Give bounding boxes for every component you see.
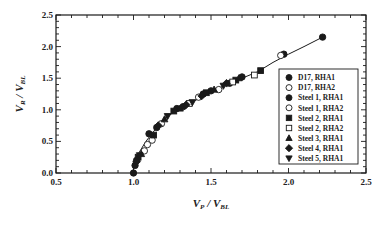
legend-item-label: Steel 1, RHA1: [298, 93, 343, 102]
legend-item-label: Steel 2, RHA1: [298, 114, 343, 123]
legend-item-label: D17, RHA2: [298, 83, 335, 92]
y-tick-label: 2.5: [42, 10, 54, 20]
data-point: [130, 170, 136, 176]
legend-item-label: Steel 2, RHA2: [298, 124, 343, 133]
data-point: [319, 34, 325, 40]
legend: D17, RHA1D17, RHA2Steel 1, RHA1Steel 1, …: [279, 69, 358, 164]
legend-item-label: Steel 4, RHA1: [298, 144, 343, 153]
y-tick-label: 1.0: [42, 105, 54, 115]
data-point: [278, 52, 284, 58]
y-tick-label: 2.0: [42, 42, 54, 52]
data-point: [230, 79, 236, 85]
legend-item-label: Steel 1, RHA2: [298, 104, 343, 113]
scatter-chart: 0.51.01.52.02.50.00.51.01.52.02.5 D17, R…: [0, 0, 391, 226]
x-axis-title: VP / VBL: [193, 197, 229, 211]
data-point: [252, 72, 258, 78]
x-tick-label: 1.5: [205, 177, 217, 187]
y-tick-label: 1.5: [42, 73, 54, 83]
data-point: [151, 132, 157, 138]
y-axis-title: VR / VBL: [13, 76, 27, 113]
x-tick-label: 2.0: [283, 177, 295, 187]
legend-marker-icon: [286, 95, 292, 101]
legend-marker-icon: [286, 115, 291, 120]
y-tick-label: 0.0: [42, 168, 54, 178]
data-point: [144, 141, 150, 147]
legend-marker-icon: [286, 85, 292, 91]
data-point: [171, 108, 177, 114]
legend-item-label: Steel 3, RHA1: [298, 134, 343, 143]
legend-marker-icon: [286, 105, 292, 111]
x-tick-label: 2.5: [360, 177, 372, 187]
legend-item-label: D17, RHA1: [298, 73, 335, 82]
y-tick-label: 0.5: [42, 136, 54, 146]
data-point: [258, 68, 264, 74]
legend-item-label: Steel 5, RHA1: [298, 154, 343, 163]
legend-marker-icon: [286, 125, 291, 130]
x-tick-label: 0.5: [50, 177, 62, 187]
x-tick-label: 1.0: [128, 177, 140, 187]
legend-marker-icon: [286, 75, 292, 81]
